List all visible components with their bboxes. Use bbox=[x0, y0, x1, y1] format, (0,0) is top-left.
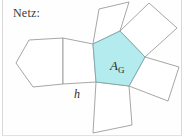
height-label: h bbox=[74, 87, 80, 101]
base-area-label-letter: A bbox=[109, 58, 118, 73]
lateral-face-square-bottom bbox=[93, 82, 132, 133]
lateral-face-square-left bbox=[63, 38, 96, 84]
figure-caption: Netz: bbox=[13, 6, 40, 21]
net-figure-container: AG h Netz: bbox=[0, 0, 184, 137]
base-area-label-subscript: G bbox=[118, 65, 125, 75]
left-base-pentagon bbox=[16, 38, 63, 87]
